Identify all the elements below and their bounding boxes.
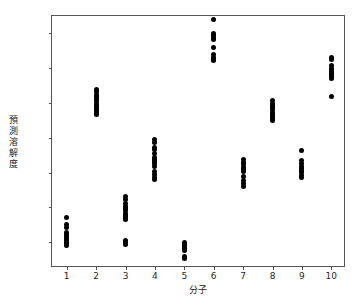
x-tick-mark bbox=[331, 266, 332, 270]
x-tick-label: 10 bbox=[319, 271, 343, 281]
x-tick-mark bbox=[243, 266, 244, 270]
x-tick-mark bbox=[96, 266, 97, 270]
scatter-plot-figure: -1.5-1.0-0.50.00.51.01.5 12345678910 預測溶… bbox=[0, 0, 357, 304]
x-tick-mark bbox=[214, 266, 215, 270]
y-tick-mark bbox=[49, 242, 53, 243]
x-tick-mark bbox=[273, 266, 274, 270]
y-axis-title: 預測溶解度 bbox=[8, 115, 19, 170]
x-tick-label: 3 bbox=[114, 271, 138, 281]
x-tick-label: 4 bbox=[143, 271, 167, 281]
x-axis-title: 分子 bbox=[51, 285, 345, 296]
plot-area: -1.5-1.0-0.50.00.51.01.5 12345678910 bbox=[51, 15, 345, 267]
y-tick-mark bbox=[49, 173, 53, 174]
x-tick-label: 2 bbox=[84, 271, 108, 281]
x-tick-mark bbox=[67, 266, 68, 270]
y-tick-mark bbox=[49, 138, 53, 139]
x-tick-mark bbox=[184, 266, 185, 270]
x-tick-label: 1 bbox=[55, 271, 79, 281]
x-tick-label: 7 bbox=[231, 271, 255, 281]
x-tick-label: 8 bbox=[261, 271, 285, 281]
y-axis: -1.5-1.0-0.50.00.51.01.5 bbox=[52, 16, 346, 268]
y-tick-mark bbox=[49, 207, 53, 208]
x-tick-mark bbox=[302, 266, 303, 270]
x-tick-mark bbox=[155, 266, 156, 270]
y-tick-mark bbox=[49, 33, 53, 34]
y-tick-mark bbox=[49, 103, 53, 104]
x-tick-label: 6 bbox=[202, 271, 226, 281]
x-tick-label: 5 bbox=[172, 271, 196, 281]
x-tick-label: 9 bbox=[290, 271, 314, 281]
y-tick-mark bbox=[49, 68, 53, 69]
x-tick-mark bbox=[126, 266, 127, 270]
